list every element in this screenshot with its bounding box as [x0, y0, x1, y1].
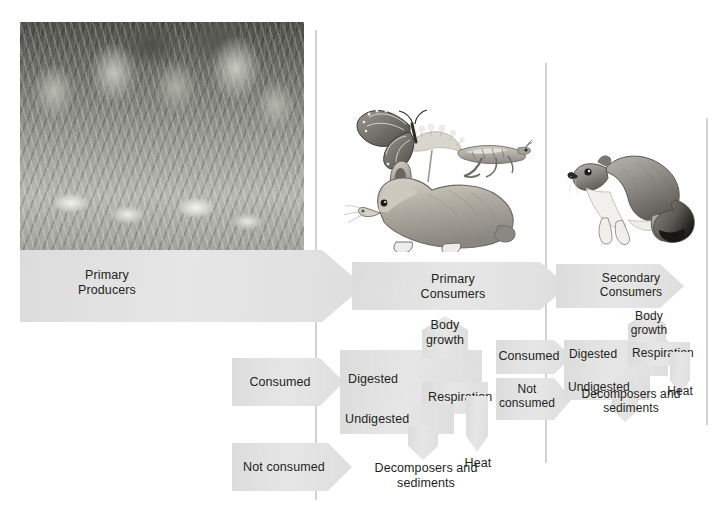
producers-not-consumed-label: Not consumed [236, 460, 332, 475]
primary-consumer-illustrations [336, 86, 532, 252]
primary-consumers-label-line1: Primary [398, 272, 508, 287]
butterfly-illustration [357, 110, 427, 170]
primary-consumers-label-line2: Consumers [398, 287, 508, 302]
pc-not-consumed-label: Not consumed [496, 383, 558, 411]
primary-consumers-label: Primary Consumers [398, 272, 508, 301]
pc-decomposers-line2: sediments [346, 476, 506, 491]
energy-flow-diagram: Primary Producers Consumed Not consumed … [0, 0, 724, 517]
producers-consumed-label: Consumed [238, 375, 322, 390]
pc-not-consumed-line2: consumed [496, 397, 558, 411]
meadow-photo [20, 22, 304, 254]
sc-decomposers-line1: Decomposers and [556, 388, 706, 402]
secondary-consumers-label-line1: Secondary [586, 272, 676, 286]
primary-producers-label-line1: Primary [52, 268, 162, 283]
grasshopper-illustration [458, 137, 532, 177]
secondary-consumers-label: Secondary Consumers [586, 272, 676, 300]
divider-right-edge [706, 118, 708, 425]
pc-heat-arrow [466, 396, 488, 452]
primary-producers-label-line2: Producers [52, 283, 162, 298]
primary-producers-label: Primary Producers [52, 268, 162, 297]
sc-digested-label: Digested [569, 348, 617, 362]
pc-body-growth-line2: growth [414, 333, 476, 348]
pc-decomposers-label: Decomposers and sediments [346, 461, 506, 490]
weasel-illustration [566, 124, 702, 256]
pc-digested-label: Digested [348, 372, 398, 387]
sc-body-growth-line1: Body [622, 310, 676, 324]
sc-body-growth-line2: growth [622, 324, 676, 338]
sc-decomposers-line2: sediments [556, 402, 706, 416]
secondary-consumers-label-line2: Consumers [586, 286, 676, 300]
pc-body-growth-label: Body growth [414, 318, 476, 347]
pc-undigested-label: Undigested [345, 412, 409, 427]
pc-decomposers-arrow [408, 426, 438, 460]
pc-not-consumed-line1: Not [496, 383, 558, 397]
pc-body-growth-line1: Body [414, 318, 476, 333]
pc-decomposers-line1: Decomposers and [346, 461, 506, 476]
sc-decomposers-label: Decomposers and sediments [556, 388, 706, 416]
sc-body-growth-label: Body growth [622, 310, 676, 338]
pc-consumed-label: Consumed [498, 349, 560, 364]
